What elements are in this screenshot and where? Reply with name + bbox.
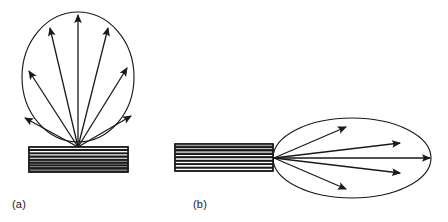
figure-canvas bbox=[0, 0, 448, 222]
beam-arrow-a-5 bbox=[78, 28, 108, 147]
panel-b bbox=[175, 118, 431, 198]
panel-a bbox=[22, 12, 134, 172]
beam-arrow-a-7 bbox=[78, 116, 131, 147]
beam-arrow-group-b bbox=[274, 127, 430, 189]
beam-arrow-group-a bbox=[25, 15, 131, 147]
antenna-aperture-b bbox=[175, 144, 273, 171]
antenna-radiation-figure: (a) (b) bbox=[0, 0, 448, 222]
antenna-aperture-a bbox=[29, 147, 128, 172]
panel-caption-a: (a) bbox=[12, 198, 26, 210]
beam-arrow-a-3 bbox=[50, 28, 78, 147]
panel-caption-b: (b) bbox=[193, 198, 207, 210]
beam-arrow-a-1 bbox=[25, 118, 78, 147]
